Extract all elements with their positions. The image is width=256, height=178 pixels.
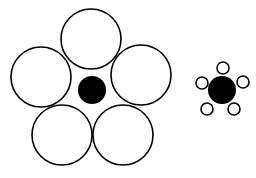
outer-circle-0: [217, 62, 229, 74]
outer-circle-1: [111, 45, 171, 105]
outer-circle-3: [201, 103, 213, 115]
large-surround-figure: [11, 9, 171, 165]
outer-circle-2: [93, 105, 153, 165]
outer-circle-2: [228, 103, 240, 115]
center-filled-circle: [208, 76, 236, 104]
outer-circle-4: [11, 47, 71, 107]
outer-circle-0: [61, 9, 121, 69]
outer-circle-4: [196, 77, 208, 89]
outer-circle-1: [237, 76, 249, 88]
outer-circle-3: [32, 105, 92, 165]
ebbinghaus-illusion-diagram: [0, 0, 256, 178]
center-filled-circle: [78, 76, 106, 104]
small-surround-figure: [196, 62, 249, 115]
